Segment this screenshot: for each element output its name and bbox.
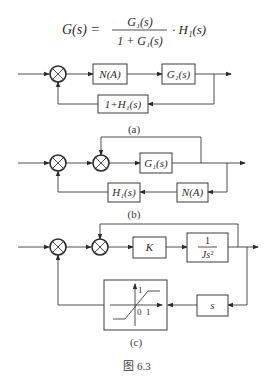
- caption-b: (b): [128, 208, 141, 221]
- saturation-block: 1 0 1: [104, 280, 167, 330]
- figure-caption: 图 6.3: [123, 360, 151, 372]
- block-label: N(A): [98, 68, 121, 81]
- figure-6-3: G(s) = G₁(s) 1 + G₁(s) · H₁(s) N(A) G₁(s…: [0, 0, 275, 383]
- block-label: G₁(s): [144, 157, 168, 170]
- formula-numerator: G₁(s): [127, 15, 153, 29]
- diagram-b: G₁(s) N(A) H₁(s) (b): [18, 137, 245, 221]
- saturation-origin-label: 0: [137, 307, 142, 317]
- caption-a: (a): [128, 123, 141, 136]
- block-label: 1+H₁(s): [105, 98, 142, 111]
- saturation-x-label: 1: [146, 307, 151, 317]
- formula-lhs: G(s) =: [62, 22, 100, 38]
- summing-junction: [92, 239, 108, 255]
- block-label: s: [210, 299, 214, 311]
- block-denominator: Js²: [202, 249, 214, 260]
- caption-c: (c): [130, 336, 143, 349]
- saturation-y-label: 1: [138, 285, 143, 295]
- summing-junction: [50, 66, 66, 82]
- block-numerator: 1: [205, 235, 210, 246]
- summing-junction: [50, 239, 66, 255]
- summing-junction: [93, 155, 109, 171]
- formula-denominator: 1 + G₁(s): [117, 34, 163, 48]
- block-label: H₁(s): [111, 186, 136, 199]
- formula: G(s) = G₁(s) 1 + G₁(s) · H₁(s): [62, 15, 206, 48]
- block-label: K: [145, 241, 154, 253]
- diagram-c: K 1 Js² s 1 0 1 (c): [18, 224, 258, 349]
- block-label: N(A): [181, 186, 204, 199]
- summing-junction: [50, 155, 66, 171]
- diagram-a: N(A) G₁(s) 1+H₁(s) (a): [18, 64, 231, 136]
- block-label: G₁(s): [167, 68, 191, 81]
- formula-rhs: · H₁(s): [172, 22, 206, 37]
